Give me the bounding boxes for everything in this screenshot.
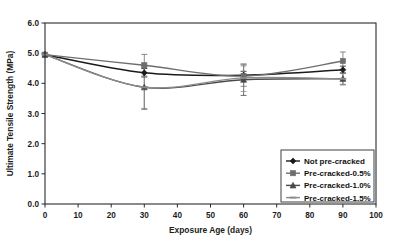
x-tick-label: 10 xyxy=(74,211,84,220)
y-tick-label: 2.0 xyxy=(28,140,40,149)
y-tick-label: 3.0 xyxy=(28,110,40,119)
x-tick-label: 60 xyxy=(239,211,249,220)
x-tick-label: 40 xyxy=(173,211,183,220)
series-marker xyxy=(340,58,345,63)
y-tick-label: 5.0 xyxy=(28,49,40,58)
legend-swatch-marker xyxy=(290,171,295,176)
legend-item-label: Pre-cracked-1.5% xyxy=(304,194,371,203)
x-tick-label: 50 xyxy=(206,211,216,220)
x-tick-label: 20 xyxy=(107,211,117,220)
y-axis-tick-labels: 0.01.02.03.04.05.06.0 xyxy=(28,19,40,209)
y-tick-label: 6.0 xyxy=(28,19,40,28)
y-axis-title: Ultimate Tensile Strength (MPa) xyxy=(5,51,15,177)
x-tick-label: 80 xyxy=(305,211,315,220)
y-tick-label: 4.0 xyxy=(28,79,40,88)
x-axis-tick-labels: 0102030405060708090100 xyxy=(43,211,384,220)
x-tick-label: 70 xyxy=(272,211,282,220)
x-tick-label: 30 xyxy=(140,211,150,220)
chart-canvas: 0.01.02.03.04.05.06.0 010203040506070809… xyxy=(0,0,396,245)
x-axis-title: Exposure Age (days) xyxy=(169,225,252,235)
x-tick-label: 90 xyxy=(338,211,348,220)
legend-item-label: Not pre-cracked xyxy=(304,157,365,166)
y-tick-label: 0.0 xyxy=(28,200,40,209)
x-tick-label: 100 xyxy=(369,211,383,220)
legend-item-label: Pre-cracked-0.5% xyxy=(304,169,371,178)
series-marker xyxy=(142,63,147,68)
x-tick-label: 0 xyxy=(43,211,48,220)
chart-legend[interactable]: Not pre-crackedPre-cracked-0.5%Pre-crack… xyxy=(281,150,374,203)
legend-item-label: Pre-cracked-1.0% xyxy=(304,181,371,190)
chart-figure: 0.01.02.03.04.05.06.0 010203040506070809… xyxy=(0,0,396,245)
y-tick-label: 1.0 xyxy=(28,170,40,179)
